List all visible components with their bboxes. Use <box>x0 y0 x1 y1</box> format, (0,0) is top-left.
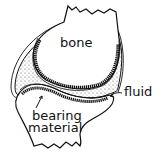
synovial-joint-diagram: bone fluid bearing material <box>0 0 164 159</box>
bone-label: bone <box>60 36 92 49</box>
fluid-label: fluid <box>124 85 152 98</box>
joint-drawing <box>0 0 164 159</box>
bearing-material-label-line2: material <box>28 121 82 134</box>
